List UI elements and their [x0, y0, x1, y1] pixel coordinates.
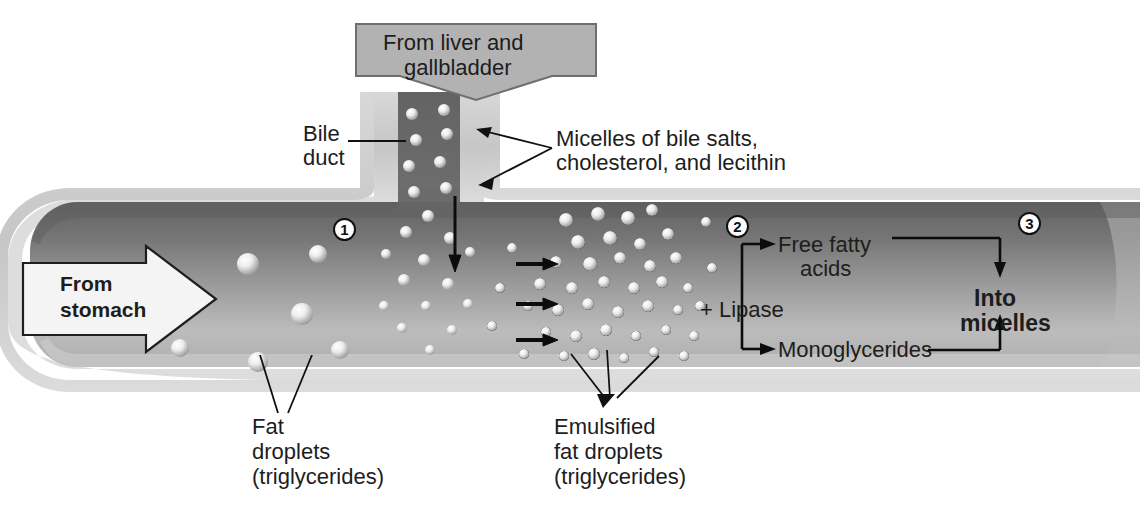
from-stomach-label-line1: From — [60, 272, 113, 296]
micelles-leader-lines — [460, 126, 560, 196]
bile-duct-leader-line — [348, 130, 410, 152]
from-liver-label-line2: gallbladder — [404, 55, 512, 80]
step-number-2: 2 — [726, 215, 749, 238]
emulsified-leader-lines — [555, 350, 675, 412]
from-liver-label-line1: From liver and — [383, 30, 524, 55]
free-fatty-acids-label-line2: acids — [800, 256, 851, 281]
fat-droplets-label-line2: droplets — [252, 439, 330, 464]
from-stomach-label-line2: stomach — [60, 298, 146, 322]
bile-duct-label-line2: duct — [303, 145, 345, 170]
fat-droplets-leader-lines — [240, 355, 330, 417]
monoglycerides-label: Monoglycerides — [778, 337, 932, 362]
into-micelles-label-line1: Into — [974, 285, 1016, 311]
fat-droplets-label-line1: Fat — [252, 414, 284, 439]
free-fatty-acids-label-line1: Free fatty — [778, 232, 871, 257]
micelles-label-line2: cholesterol, and lecithin — [556, 150, 786, 175]
lipase-label: + Lipase — [700, 297, 784, 322]
into-micelles-label-line2: micelles — [960, 310, 1051, 336]
step-number-3: 3 — [1018, 212, 1041, 235]
emulsified-label-line1: Emulsified — [554, 414, 655, 439]
micelles-label-line1: Micelles of bile salts, — [556, 126, 758, 151]
fat-digestion-diagram: From liver and gallbladder From stomach … — [0, 0, 1140, 517]
fat-droplets-label-line3: (triglycerides) — [252, 464, 384, 489]
bile-duct-label-line1: Bile — [303, 121, 340, 146]
emulsified-label-line2: fat droplets — [554, 439, 663, 464]
emulsified-label-line3: (triglycerides) — [554, 464, 686, 489]
step-number-1: 1 — [333, 218, 356, 241]
